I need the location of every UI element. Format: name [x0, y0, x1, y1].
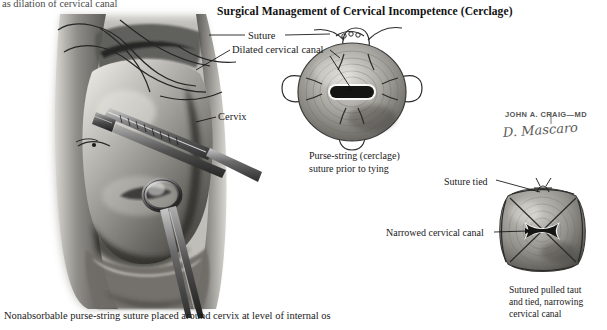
- dilated-canal-opening: [330, 86, 374, 98]
- caption-lower-right-figure: Sutured pulled taut and tied, narrowing …: [509, 285, 583, 321]
- cut-off-header-text: as dilation of cervical canal: [2, 0, 117, 10]
- label-suture-tied: Suture tied: [444, 176, 488, 188]
- plate-title: Surgical Management of Cervical Incompet…: [217, 5, 513, 19]
- leader-suture-tied: [496, 180, 540, 192]
- label-dilated-cervical-canal: Dilated cervical canal: [232, 44, 324, 56]
- artist-printed-credit: JOHN A. CRAIG—MD: [505, 110, 587, 119]
- label-suture: Suture: [248, 30, 275, 42]
- figure-main-cervix-view: [55, 14, 262, 318]
- figure-lower-right-cross-section: [494, 178, 585, 272]
- caption-main-figure: Nonabsorbable purse-string suture placed…: [4, 310, 331, 322]
- caption-middle-figure: Purse-string (cerclage) suture prior to …: [309, 150, 400, 175]
- label-narrowed-cervical-canal: Narrowed cervical canal: [386, 227, 484, 239]
- illustration-plate: as dilation of cervical canal Surgical M…: [0, 0, 607, 330]
- label-cervix: Cervix: [218, 111, 247, 123]
